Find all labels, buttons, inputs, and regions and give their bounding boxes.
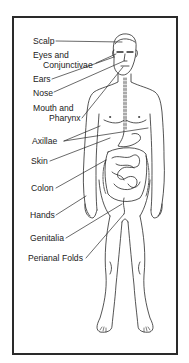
label-mouth-and: Mouth and bbox=[33, 103, 74, 113]
leader-hands bbox=[56, 196, 86, 215]
label-axillae: Axillae bbox=[32, 136, 57, 146]
label-conjunctivae: Conjunctivae bbox=[43, 60, 93, 70]
label-scalp: Scalp bbox=[33, 36, 55, 46]
legs-outline bbox=[97, 216, 153, 332]
label-nose: Nose bbox=[33, 88, 53, 98]
label-pharynx: Pharynx bbox=[49, 113, 81, 123]
label-colon: Colon bbox=[31, 183, 53, 193]
label-hands: Hands bbox=[30, 210, 55, 220]
torso-outline bbox=[83, 74, 164, 218]
label-eyes-and: Eyes and bbox=[33, 50, 69, 60]
leader-colon bbox=[56, 160, 106, 188]
human-body-figure bbox=[0, 0, 189, 363]
leader-mouth bbox=[82, 67, 123, 118]
label-perianal-folds: Perianal Folds bbox=[28, 253, 83, 263]
leader-axillae-right bbox=[64, 128, 148, 141]
label-skin: Skin bbox=[31, 156, 48, 166]
leader-lines bbox=[50, 41, 148, 258]
colon-intestines bbox=[103, 148, 149, 214]
leader-axillae-left bbox=[64, 126, 100, 141]
leader-scalp bbox=[56, 41, 122, 42]
head-outline bbox=[113, 34, 138, 75]
leader-genitalia bbox=[66, 204, 122, 238]
label-ears: Ears bbox=[33, 74, 51, 84]
leader-eyes bbox=[96, 54, 116, 63]
label-genitalia: Genitalia bbox=[30, 233, 64, 243]
leader-skin bbox=[50, 138, 110, 161]
